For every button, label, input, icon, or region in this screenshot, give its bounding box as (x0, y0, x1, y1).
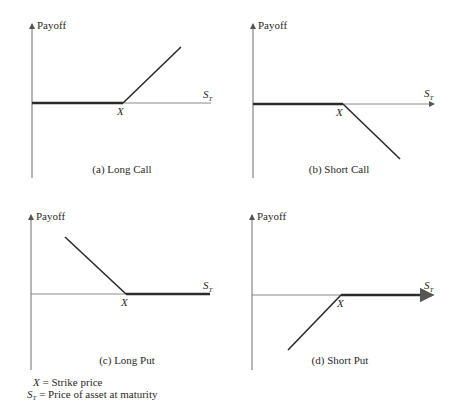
legend-strike: X = Strike price (33, 377, 102, 388)
panel-long-put: Payoff ST X (c) Long Put (31, 210, 214, 370)
strike-label: X (336, 297, 345, 309)
x-axis-label: ST (203, 88, 214, 103)
payoff-line-slope (343, 104, 400, 159)
y-axis-label: Payoff (37, 19, 66, 31)
panel-caption: (c) Long Put (99, 354, 155, 367)
legend-text: = Price of asset at maturity (36, 388, 157, 400)
x-axis-label: ST (424, 279, 435, 294)
payoff-line-slope (123, 47, 181, 103)
payoff-line-slope (65, 237, 126, 294)
panel-caption: (d) Short Put (312, 354, 369, 367)
y-axis-label: Payoff (257, 210, 286, 222)
y-axis-label: Payoff (258, 19, 287, 31)
panel-caption: (b) Short Call (309, 163, 370, 176)
payoff-line-slope (288, 295, 341, 350)
y-axis-label: Payoff (36, 210, 65, 222)
panel-short-call: Payoff ST X (b) Short Call (253, 19, 435, 178)
legend-text: = Strike price (40, 376, 103, 388)
panel-caption: (a) Long Call (92, 163, 151, 176)
strike-label: X (116, 105, 125, 117)
panel-short-put: Payoff ST X (d) Short Put (252, 210, 435, 370)
legend-price-at-maturity: ST = Price of asset at maturity (27, 389, 157, 404)
x-axis-label: ST (203, 279, 214, 294)
panel-long-call: Payoff ST X (a) Long Call (32, 19, 214, 178)
strike-label: X (335, 106, 344, 118)
payoff-diagrams: Payoff ST X (a) Long Call Payoff ST X (b… (0, 0, 459, 417)
strike-label: X (120, 296, 129, 308)
x-axis-label: ST (424, 87, 435, 102)
legend-symbol: X (33, 376, 40, 388)
